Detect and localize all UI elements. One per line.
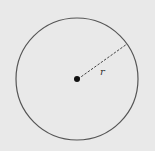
diagram-canvas: r	[0, 0, 155, 151]
center-point	[74, 76, 80, 82]
circle-diagram: r	[0, 0, 155, 151]
radius-label: r	[100, 66, 106, 77]
